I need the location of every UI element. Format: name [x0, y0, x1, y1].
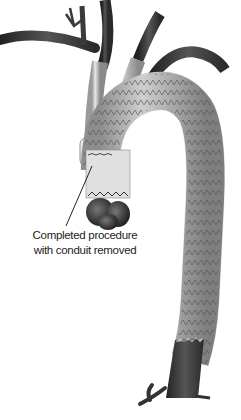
- callout-line-2: with conduit removed: [30, 243, 140, 258]
- illustration-canvas: Completed procedure with conduit removed: [0, 0, 241, 420]
- neck-vessels: [0, 0, 225, 78]
- ascending-aorta: [86, 150, 130, 198]
- aortic-root: [86, 198, 130, 230]
- aorta-illustration: [0, 0, 241, 420]
- callout-line-1: Completed procedure: [30, 228, 140, 243]
- callout-label: Completed procedure with conduit removed: [30, 228, 140, 258]
- distal-native-aorta: [140, 337, 210, 404]
